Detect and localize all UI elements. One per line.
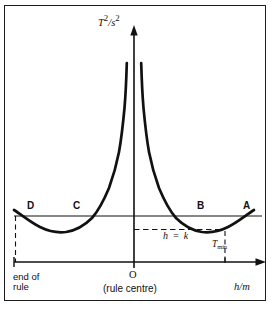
point-label-c: C xyxy=(73,201,80,212)
x-axis-label: h/m xyxy=(234,281,250,292)
y-axis-arrowhead xyxy=(130,25,137,36)
y-axis-label: T2/s2 xyxy=(98,14,120,28)
point-label-a: A xyxy=(243,201,250,212)
point-label-b: B xyxy=(197,201,204,212)
end-of-rule-label: end ofrule xyxy=(13,272,39,292)
origin-label: O xyxy=(129,269,137,280)
t-min-subscript: min xyxy=(217,243,227,250)
figure-container: T2/s2 h/m A B C D h = k Tmin O (rule cen… xyxy=(0,0,276,317)
point-label-d: D xyxy=(27,201,34,212)
end-of-rule-line-2: rule xyxy=(13,282,39,292)
plot-canvas xyxy=(0,0,276,317)
t-min-label: Tmin xyxy=(212,240,227,250)
rule-centre-label: (rule centre) xyxy=(103,284,157,295)
x-axis-arrowhead xyxy=(256,258,267,265)
h-equals-k-label: h = k xyxy=(163,231,189,242)
